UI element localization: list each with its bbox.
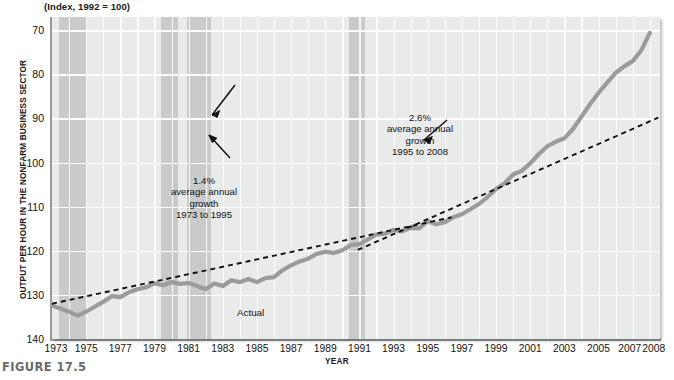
annotation-trend-2-line2: average annual (387, 123, 453, 134)
x-tick-label: 1975 (75, 343, 98, 354)
x-tick-label: 1981 (177, 343, 200, 354)
x-tick-label: 2003 (553, 343, 576, 354)
x-tick-label: 1973 (45, 343, 68, 354)
figure-caption: FIGURE 17.5 (2, 360, 86, 374)
annotation-trend-1-line3: growth (171, 198, 237, 209)
annotation-trend-2: 2.6% average annual growth 1995 to 2008 (387, 112, 453, 158)
x-tick-label: 1983 (211, 343, 234, 354)
annotation-trend-2-rate: 2.6% (387, 112, 453, 123)
x-tick-label: 1997 (450, 343, 473, 354)
x-tick-label: 1993 (382, 343, 405, 354)
annotation-trend-2-line4: 1995 to 2008 (387, 146, 453, 157)
x-tick-label: 2005 (587, 343, 610, 354)
x-tick-label: 1979 (143, 343, 166, 354)
y-tick-label: 80 (18, 69, 44, 80)
y-tick-label: 90 (18, 113, 44, 124)
annotation-actual-label: Actual (237, 307, 264, 318)
x-tick-label: 2007 (618, 343, 641, 354)
x-tick-label: 2008 (642, 343, 665, 354)
y-tick-label: 100 (18, 158, 44, 169)
x-tick-label: 1999 (485, 343, 508, 354)
x-tick-label: 1987 (280, 343, 303, 354)
x-tick-label: 1991 (348, 343, 371, 354)
figure-container: (Index, 1992 = 100) OUTPUT PER HOUR IN T… (0, 0, 674, 380)
annotation-trend-1-rate: 1.4% (171, 175, 237, 186)
y-tick-label: 120 (18, 246, 44, 257)
x-tick-label: 1989 (314, 343, 337, 354)
plot-svg (52, 17, 660, 339)
y-axis-tick-labels: 140130120110100908070 (18, 0, 44, 380)
chart-title: (Index, 1992 = 100) (44, 1, 130, 12)
x-tick-label: 1985 (245, 343, 268, 354)
x-tick-label: 1995 (416, 343, 439, 354)
y-tick-label: 70 (18, 25, 44, 36)
y-tick-label: 110 (18, 202, 44, 213)
annotation-trend-1: 1.4% average annual growth 1973 to 1995 (171, 175, 237, 221)
x-tick-label: 1977 (109, 343, 132, 354)
x-tick-label: 2001 (519, 343, 542, 354)
x-axis-label: YEAR (0, 357, 674, 366)
actual-data-line (52, 33, 650, 316)
annotation-trend-1-line4: 1973 to 1995 (171, 209, 237, 220)
y-tick-label: 130 (18, 290, 44, 301)
annotation-trend-1-line2: average annual (171, 186, 237, 197)
annotation-trend-2-line3: growth (387, 135, 453, 146)
plot-area: 1.4% average annual growth 1973 to 1995 … (52, 17, 660, 339)
